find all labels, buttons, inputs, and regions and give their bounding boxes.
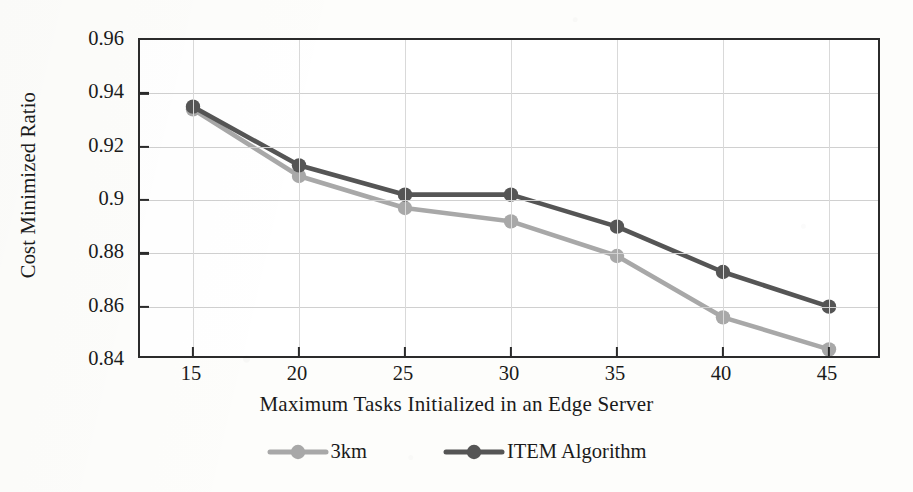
- x-tick-label: 30: [499, 362, 520, 385]
- y-tick-label: 0.92: [88, 133, 124, 156]
- x-axis-title: Maximum Tasks Initialized in an Edge Ser…: [0, 392, 913, 417]
- y-axis-title-text: Cost Minimized Ratio: [17, 92, 40, 278]
- legend-line-marker-icon: [443, 442, 505, 462]
- x-tick-label: 45: [817, 362, 838, 385]
- legend-label: 3km: [331, 440, 367, 463]
- line-chart-figure: Cost Minimized Ratio 0.840.860.880.90.92…: [0, 0, 913, 492]
- x-tick-label: 20: [287, 362, 308, 385]
- plot-area: [138, 38, 880, 358]
- gridline-vertical: [723, 40, 724, 356]
- legend-label: ITEM Algorithm: [507, 440, 647, 463]
- x-tick-label: 15: [181, 362, 202, 385]
- gridline-vertical: [193, 40, 194, 356]
- x-axis-tick-labels: 15202530354045: [138, 362, 880, 390]
- x-tick-mark: [192, 347, 194, 356]
- gridline-horizontal: [140, 253, 878, 254]
- y-axis-title: Cost Minimized Ratio: [6, 0, 50, 370]
- y-tick-mark: [140, 146, 149, 148]
- x-tick-mark: [616, 347, 618, 356]
- y-tick-mark: [140, 92, 149, 94]
- gridline-horizontal: [140, 200, 878, 201]
- x-tick-mark: [722, 347, 724, 356]
- gridline-horizontal: [140, 307, 878, 308]
- gridline-horizontal: [140, 147, 878, 148]
- y-tick-mark: [140, 199, 149, 201]
- y-tick-label: 0.86: [88, 293, 124, 316]
- x-tick-label: 35: [605, 362, 626, 385]
- gridline-vertical: [405, 40, 406, 356]
- legend-item[interactable]: 3km: [267, 440, 367, 463]
- gridline-horizontal: [140, 93, 878, 94]
- gridline-vertical: [617, 40, 618, 356]
- gridline-vertical: [829, 40, 830, 356]
- series-layer: [140, 40, 878, 356]
- y-tick-label: 0.84: [88, 347, 124, 370]
- plot-inner: [140, 40, 878, 356]
- y-axis-tick-labels: 0.840.860.880.90.920.940.96: [48, 38, 132, 358]
- y-tick-mark: [140, 252, 149, 254]
- x-axis-title-text: Maximum Tasks Initialized in an Edge Ser…: [260, 392, 654, 416]
- gridline-vertical: [299, 40, 300, 356]
- y-tick-label: 0.96: [88, 27, 124, 50]
- x-tick-mark: [510, 347, 512, 356]
- x-tick-mark: [298, 347, 300, 356]
- y-tick-label: 0.88: [88, 240, 124, 263]
- x-tick-mark: [828, 347, 830, 356]
- legend-line-marker-icon: [267, 442, 329, 462]
- legend-item[interactable]: ITEM Algorithm: [443, 440, 647, 463]
- x-tick-label: 40: [711, 362, 732, 385]
- x-tick-label: 25: [393, 362, 414, 385]
- y-tick-label: 0.94: [88, 80, 124, 103]
- y-tick-label: 0.9: [98, 187, 124, 210]
- chart-legend: 3kmITEM Algorithm: [0, 440, 913, 463]
- x-tick-mark: [404, 347, 406, 356]
- gridline-vertical: [511, 40, 512, 356]
- y-tick-mark: [140, 306, 149, 308]
